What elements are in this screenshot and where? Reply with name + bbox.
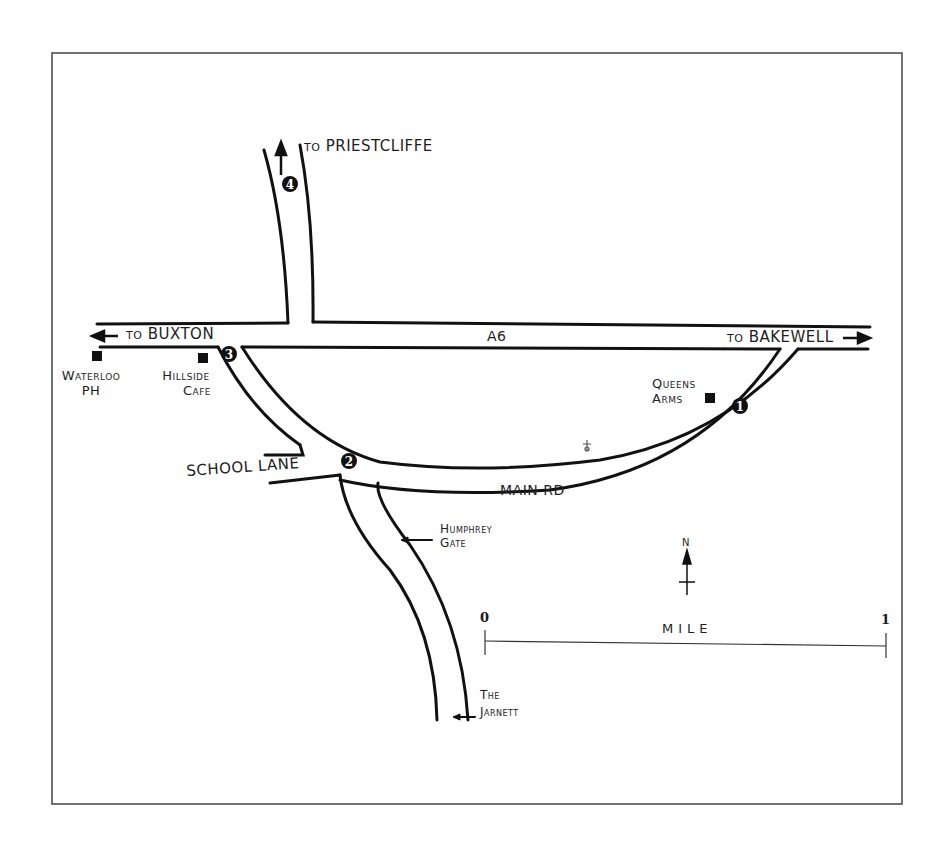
a6-road-edge: [97, 323, 288, 324]
label-humphrey-gate: Humphrey Gate: [440, 522, 492, 550]
a6-road-edge: [242, 347, 780, 349]
scale-end-label: 1: [881, 612, 890, 627]
school-lane-edge: [270, 475, 340, 483]
queens-arms-marker-icon: [705, 393, 715, 403]
waterloo-marker-icon: [92, 351, 102, 361]
svg-text:1: 1: [736, 400, 744, 414]
label-hillside-cafe: Hillside Cafe: [152, 368, 220, 398]
scale-unit-label: MILE: [662, 622, 713, 635]
south-road-edge: [378, 483, 468, 720]
north-arrow-icon: [679, 550, 695, 595]
label-to-priestcliffe: TO PRIESTCLIFFE: [304, 139, 433, 154]
label-to-bakewell: TO BAKEWELL: [727, 330, 834, 345]
arrow-bakewell-head: [858, 333, 870, 343]
hillside-marker-icon: [198, 353, 208, 363]
label-queens-arms: Queens Arms: [652, 376, 696, 406]
svg-text:3: 3: [225, 348, 233, 362]
arrow-buxton-head: [92, 331, 104, 341]
label-north: N: [682, 538, 690, 548]
route-map: 4 3 2 1: [0, 0, 950, 842]
label-a6: A6: [487, 329, 506, 343]
priestcliffe-road-edge: [300, 145, 313, 322]
arrow-jarnett-head: [453, 714, 460, 720]
priestcliffe-road-edge: [264, 150, 288, 323]
label-to-buxton: TO BUXTON: [126, 327, 214, 342]
svg-text:2: 2: [345, 455, 353, 469]
label-the-jarnett: The Jarnett: [480, 687, 519, 721]
arrow-priestcliffe-head: [276, 142, 286, 155]
a6-road-edge: [313, 322, 870, 327]
map-frame: [52, 53, 902, 804]
main-rd-edge: [242, 347, 798, 468]
scale-start-label: 0: [480, 610, 489, 625]
church-icon: [583, 440, 591, 451]
label-main-rd: MAIN RD: [500, 483, 565, 497]
svg-text:4: 4: [286, 178, 294, 192]
label-waterloo-ph: Waterloo PH: [56, 368, 126, 398]
